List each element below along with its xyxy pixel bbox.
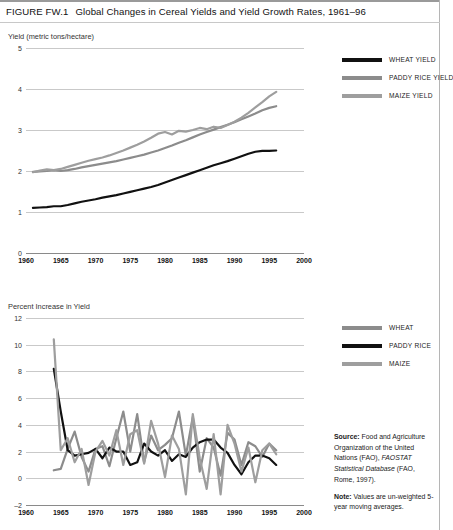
y-axis-tick: 5 [18,45,22,52]
legend-item[interactable]: WHEAT YIELD [342,56,453,63]
legend-label: PADDY RICE YIELD [389,74,453,81]
x-axis-tick: 1980 [157,257,173,264]
y-axis-tick: 4 [18,86,22,93]
legend-item[interactable]: MAIZE [342,360,431,367]
x-axis-tick: 1960 [18,257,34,264]
x-axis-tick: 1990 [227,509,243,516]
title-divider [0,22,440,23]
legend-swatch-icon [342,344,382,348]
source-note: Source: Food and Agriculture Organizatio… [334,432,434,486]
y-axis-tick: 12 [14,315,22,322]
series-line [33,92,276,172]
legend-yields: WHEAT YIELDPADDY RICE YIELDMAIZE YIELD [342,56,453,110]
legend-label: MAIZE YIELD [389,92,433,99]
x-axis-tick: 1995 [261,509,277,516]
legend-swatch-icon [342,76,382,80]
figure-title-bar: FIGURE FW.1Global Changes in Cereal Yiel… [6,6,426,17]
y-axis-tick: 10 [14,341,22,348]
y-axis-label-top: Yield (metric tons/hectare) [8,32,94,41]
note-label: Note: [334,493,352,500]
x-axis-tick: 1975 [122,509,138,516]
legend-swatch-icon [342,58,382,62]
legend-swatch-icon [342,94,382,98]
gridline: –2 [26,505,304,506]
top-divider [0,0,440,2]
x-axis-tick: 1990 [227,257,243,264]
legend-item[interactable]: PADDY RICE YIELD [342,74,453,81]
y-axis-tick: 6 [18,395,22,402]
chart-yields: Yield (metric tons/hectare) 012345196019… [0,30,330,270]
chart-growth-rates: Percent Increase in Yield –2024681012196… [0,300,330,522]
y-axis-tick: 0 [18,475,22,482]
notes-block: Source: Food and Agriculture Organizatio… [334,432,434,519]
legend-swatch-icon [342,362,382,366]
x-axis-tick: 1985 [192,509,208,516]
x-axis-tick: 1970 [88,509,104,516]
plot-area-yields: 0123451960196519701975198019851990199520… [26,48,304,253]
legend-growth-rates: WHEATPADDY RICEMAIZE [342,324,431,378]
x-axis-tick: 1970 [88,257,104,264]
series-line [33,151,276,208]
series-line [33,106,276,172]
legend-label: WHEAT [389,324,414,331]
legend-item[interactable]: MAIZE YIELD [342,92,453,99]
gridline: 0 [26,253,304,254]
legend-swatch-icon [342,326,382,330]
y-axis-tick: 0 [18,250,22,257]
y-axis-tick: 2 [18,168,22,175]
page-title: Global Changes in Cereal Yields and Yiel… [75,6,366,17]
values-note: Note: Values are un-weighted 5-year movi… [334,492,434,513]
legend-label: MAIZE [389,360,410,367]
legend-label: PADDY RICE [389,342,431,349]
x-axis-tick: 1980 [157,509,173,516]
y-axis-tick: 2 [18,448,22,455]
x-axis-tick: 1995 [261,257,277,264]
x-axis-tick: 1985 [192,257,208,264]
series-layer [26,48,304,253]
x-axis-tick: 2000 [296,257,312,264]
x-axis-tick: 2000 [296,509,312,516]
y-axis-label-bottom: Percent Increase in Yield [8,302,90,311]
x-axis-tick: 1975 [122,257,138,264]
x-axis-tick: 1960 [18,509,34,516]
figure-number: FIGURE FW.1 [6,6,68,17]
plot-area-growth-rates: –202468101219601965197019751980198519901… [26,318,304,505]
y-axis-tick: 8 [18,368,22,375]
legend-item[interactable]: WHEAT [342,324,431,331]
legend-item[interactable]: PADDY RICE [342,342,431,349]
y-axis-tick: 4 [18,421,22,428]
x-axis-tick: 1965 [53,509,69,516]
y-axis-tick: –2 [14,502,22,509]
y-axis-tick: 3 [18,127,22,134]
source-label: Source: [334,433,360,440]
x-axis-tick: 1965 [53,257,69,264]
y-axis-tick: 1 [18,209,22,216]
legend-label: WHEAT YIELD [389,56,436,63]
series-layer [26,318,304,505]
